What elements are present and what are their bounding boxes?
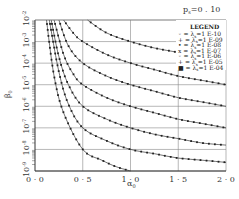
y-tick-label: 10-8: [21, 140, 31, 155]
chart: ps=0 . 10 LEGEND ◦ = λs=1 E-10+ = λs=1 E…: [0, 0, 239, 199]
y-axis-label: β0: [3, 90, 13, 98]
y-tick-label: 10-6: [21, 97, 31, 112]
chart-title: ps=0 . 10: [183, 5, 220, 15]
legend-item: ■ = λs=1 E-04: [178, 64, 223, 73]
y-tick-label: 10-5: [21, 76, 31, 91]
x-tick-label: 1 · 5: [169, 175, 187, 184]
series-curve: [47, 20, 131, 171]
y-tick-labels: 10-910-810-710-610-510-410-310-2: [21, 11, 31, 177]
legend-title: LEGEND: [190, 23, 219, 30]
y-tick-label: 10-4: [21, 54, 31, 69]
x-tick-label: 2 · 0: [217, 175, 235, 184]
y-tick-label: 10-2: [21, 11, 31, 26]
y-tick-label: 10-3: [21, 33, 31, 48]
legend: LEGEND ◦ = λs=1 E-10+ = λs=1 E-09• = λs=…: [176, 20, 226, 72]
y-tick-label: 10-9: [21, 162, 31, 177]
x-tick-label: 0 · 5: [74, 175, 92, 184]
y-tick-label: 10-7: [21, 119, 31, 134]
